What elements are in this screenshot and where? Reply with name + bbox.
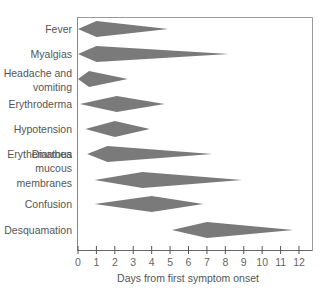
symptom-label: membranes	[17, 177, 72, 189]
symptom-timeline-chart: FeverMyalgiasHeadache andvomitingErythro…	[0, 0, 324, 293]
x-axis-title: Days from first symptom onset	[117, 272, 259, 284]
x-tick-label: 0	[75, 256, 81, 268]
symptom-diamond	[78, 46, 229, 62]
x-tick-label: 7	[204, 256, 210, 268]
symptom-label: Hypotension	[14, 123, 73, 135]
x-tick-label: 5	[167, 256, 173, 268]
x-tick-label: 11	[275, 256, 286, 268]
symptom-label: Myalgias	[31, 48, 72, 60]
symptom-diamond	[85, 121, 149, 137]
symptom-label: Erythematous	[7, 148, 72, 160]
symptom-diamond	[87, 146, 212, 162]
symptom-label: Erythroderma	[8, 98, 72, 110]
x-tick-label: 3	[130, 256, 136, 268]
symptom-label: Confusion	[25, 198, 72, 210]
symptom-diamond	[78, 71, 128, 87]
symptom-diamond	[95, 196, 204, 212]
x-axis-ticks: 0123456789101112	[75, 246, 305, 268]
symptom-labels: FeverMyalgiasHeadache andvomitingErythro…	[4, 23, 73, 236]
symptom-label: vomiting	[33, 81, 72, 93]
x-tick-label: 2	[112, 256, 118, 268]
symptom-label: mucous	[35, 162, 72, 174]
x-tick-label: 8	[222, 256, 228, 268]
x-tick-label: 1	[93, 256, 99, 268]
symptom-label: Fever	[45, 23, 72, 35]
symptom-diamond	[78, 21, 168, 37]
symptom-label: Desquamation	[4, 224, 72, 236]
x-tick-label: 6	[186, 256, 192, 268]
x-tick-label: 12	[293, 256, 305, 268]
symptom-bars	[78, 21, 293, 238]
x-tick-label: 9	[241, 256, 247, 268]
symptom-diamond	[172, 222, 294, 238]
symptom-diamond	[95, 172, 242, 188]
x-tick-label: 4	[149, 256, 155, 268]
symptom-diamond	[80, 96, 165, 112]
symptom-label: Headache and	[4, 67, 72, 79]
x-tick-label: 10	[256, 256, 268, 268]
